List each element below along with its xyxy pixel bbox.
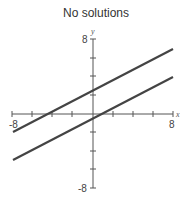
x-axis-label: x — [175, 110, 180, 119]
x-max-label: 8 — [169, 119, 175, 130]
y-axis-label: y — [90, 27, 95, 36]
chart-plot: x y -8 8 8 -8 — [0, 0, 192, 202]
y-min-label: -8 — [78, 183, 87, 194]
y-max-label: 8 — [82, 34, 88, 45]
x-min-label: -8 — [9, 119, 18, 130]
